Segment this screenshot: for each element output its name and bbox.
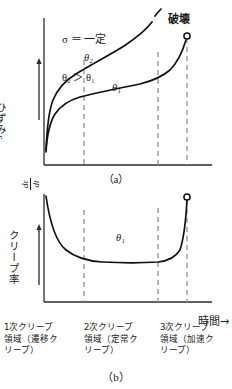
panel-b-plot <box>0 190 232 315</box>
fracture-label: 破壊 <box>168 14 190 27</box>
region-tertiary-creep: 3次クリープ 領域（加速ク リープ） <box>160 322 232 357</box>
creep-rate-fraction: dε dt <box>20 178 41 190</box>
panel-a-y-axis-text: ひずみ <box>0 102 6 135</box>
region-primary-creep: 1次クリープ 領域（遷移ク リープ） <box>0 322 84 357</box>
creep-region-labels: 1次クリープ 領域（遷移ク リープ） 2次クリープ 領域（定常ク リープ） 3次… <box>0 322 232 357</box>
creep-curve-figure: σ ＝ 一定 θ₂ ＞ θ₁ 破壊 θ₂ θ₁ ひずみε （a） dε dt ク… <box>0 0 232 389</box>
panel-a-y-axis-label: ひずみε <box>4 58 18 139</box>
panel-b-theta1-label: θ₁ <box>116 232 125 244</box>
panel-b-caption: （b） <box>0 368 232 384</box>
panel-a-theta2-label: θ₂ <box>84 52 93 64</box>
creep-rate-numerator: dε <box>20 178 31 190</box>
fracture-point-marker <box>184 33 190 39</box>
panel-b-end-marker <box>184 194 190 200</box>
panel-b-curve-theta1 <box>46 196 187 263</box>
panel-a-y-arrow <box>36 58 41 64</box>
creep-rate-denominator: dt <box>31 178 41 190</box>
panel-a-curve-theta2-break <box>155 9 161 16</box>
panel-a-y-axis-symbol: ε <box>0 135 6 139</box>
region-secondary-creep: 2次クリープ 領域（定常ク リープ） <box>84 322 160 357</box>
panel-b-y-axis-label: クリープ率 <box>6 230 18 285</box>
condition-sigma: σ ＝ 一定 <box>62 33 106 46</box>
condition-theta: θ₂ ＞ θ₁ <box>62 72 106 84</box>
panel-b-y-arrow <box>36 224 41 230</box>
panel-a-theta1-label: θ₁ <box>112 82 121 94</box>
